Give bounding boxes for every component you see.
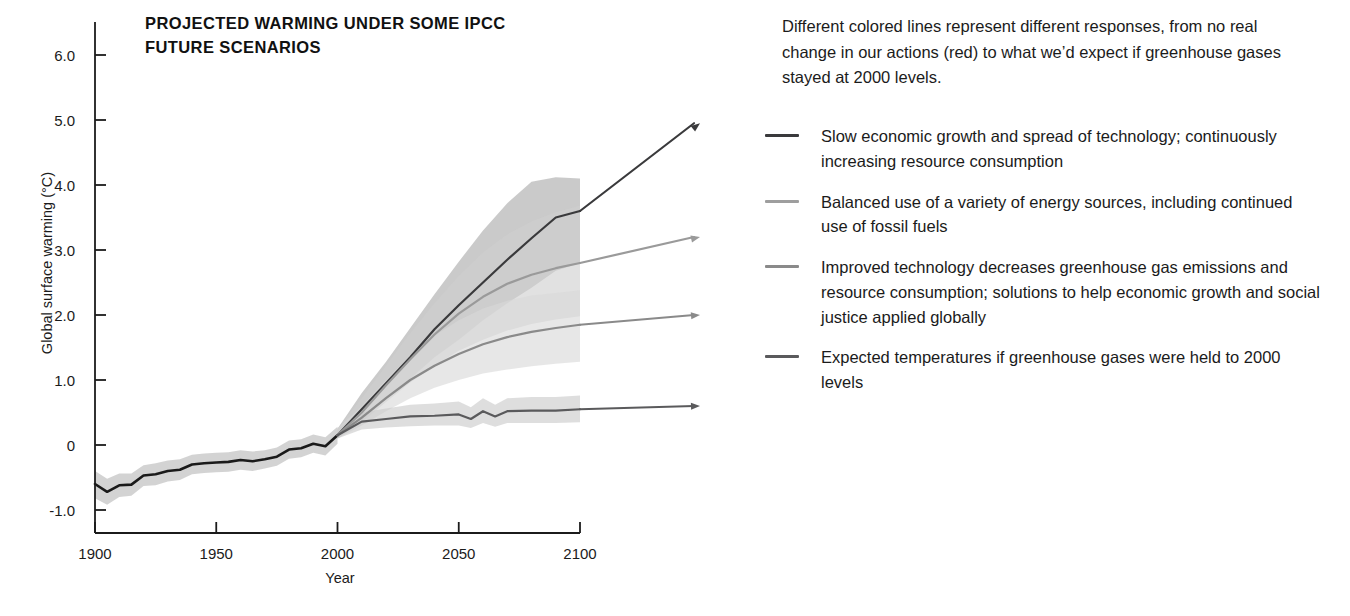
legend-item[interactable]: Improved technology decreases greenhouse… — [765, 255, 1345, 329]
y-tick-label: 6.0 — [0, 47, 75, 64]
legend-item-label: Balanced use of a variety of energy sour… — [821, 190, 1321, 240]
x-tick-label: 1900 — [78, 545, 111, 562]
legend-item[interactable]: Balanced use of a variety of energy sour… — [765, 190, 1345, 240]
legend-line-swatch-icon — [765, 355, 799, 358]
x-axis-title: Year — [95, 570, 585, 586]
legend-line-swatch-icon — [765, 134, 799, 137]
chart-title-line-1: PROJECTED WARMING UNDER SOME IPCC — [145, 14, 506, 32]
series-arrowhead-b1 — [691, 311, 701, 319]
x-tick-label: 1950 — [200, 545, 233, 562]
y-tick-label: -1.0 — [0, 502, 75, 519]
description-blurb: Different colored lines represent differ… — [782, 14, 1302, 91]
chart-title-line-2: FUTURE SCENARIOS — [145, 38, 321, 56]
warming-line-chart — [0, 0, 760, 616]
chart-panel: PROJECTED WARMING UNDER SOME IPCC FUTURE… — [0, 0, 760, 616]
y-tick-label: 4.0 — [0, 177, 75, 194]
series-arrow-tail-constant2000 — [580, 406, 694, 409]
x-tick-label: 2000 — [321, 545, 354, 562]
series-arrow-tail-b1 — [580, 315, 694, 325]
x-tick-label: 2100 — [563, 545, 596, 562]
uncertainty-band-historical — [95, 427, 338, 505]
series-arrow-tail-a2 — [580, 123, 694, 211]
figure-root: PROJECTED WARMING UNDER SOME IPCC FUTURE… — [0, 0, 1350, 616]
series-arrowhead-a2 — [691, 120, 703, 131]
chart-title: PROJECTED WARMING UNDER SOME IPCC FUTURE… — [145, 12, 585, 60]
y-tick-label: 1.0 — [0, 372, 75, 389]
series-arrow-tail-a1b — [580, 237, 694, 263]
legend-item-label: Slow economic growth and spread of techn… — [821, 124, 1321, 174]
y-tick-label: 5.0 — [0, 112, 75, 129]
legend-panel: Different colored lines represent differ… — [760, 0, 1350, 616]
legend-line-swatch-icon — [765, 200, 799, 203]
legend-list: Slow economic growth and spread of techn… — [765, 124, 1345, 411]
y-tick-label: 2.0 — [0, 307, 75, 324]
legend-item-label: Improved technology decreases greenhouse… — [821, 255, 1321, 329]
series-arrowhead-a1b — [690, 233, 700, 242]
legend-item[interactable]: Expected temperatures if greenhouse gase… — [765, 345, 1345, 395]
y-tick-label: 0 — [0, 437, 75, 454]
y-tick-label: 3.0 — [0, 242, 75, 259]
legend-line-swatch-icon — [765, 265, 799, 268]
legend-item-label: Expected temperatures if greenhouse gase… — [821, 345, 1321, 395]
series-arrowhead-constant2000 — [691, 402, 700, 409]
x-tick-label: 2050 — [442, 545, 475, 562]
legend-item[interactable]: Slow economic growth and spread of techn… — [765, 124, 1345, 174]
